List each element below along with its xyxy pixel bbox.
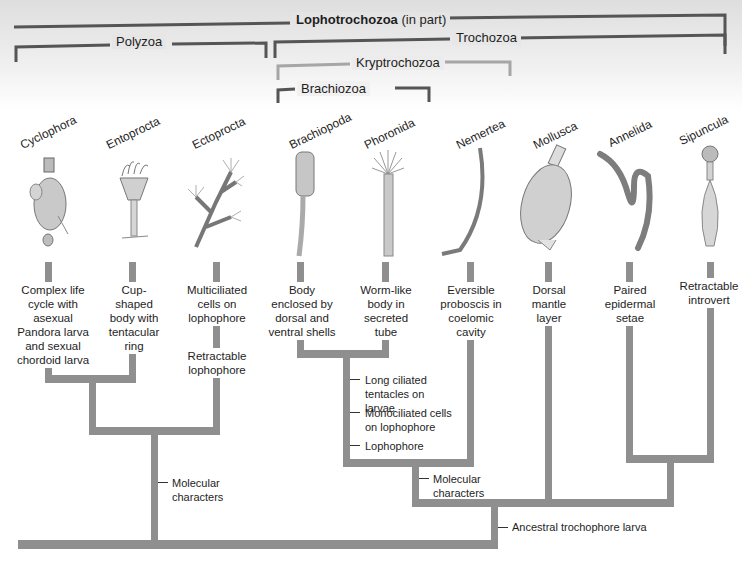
node-kryptrochozoa-characters: Molecular characters xyxy=(433,472,493,500)
character-brachiopoda: Body enclosed by dorsal and ventral shel… xyxy=(266,282,338,340)
entoprocta-illustration xyxy=(110,152,160,252)
sipuncula-illustration xyxy=(690,144,730,254)
node-polyzoa-characters: Molecular characters xyxy=(172,476,232,504)
node-lophophore: Lophophore xyxy=(365,439,424,453)
tick-lophophorate-2 xyxy=(350,412,360,413)
tick-lophophorate-3 xyxy=(350,445,360,446)
tick-trochozoa-node xyxy=(498,527,508,528)
phoronida-illustration xyxy=(368,148,408,258)
character-phoronida: Worm-like body in secreted tube xyxy=(354,282,418,340)
character-sipuncula: Retractable introvert xyxy=(676,278,742,308)
tick-kryptrochozoa-node xyxy=(419,478,429,479)
clade-brachiozoa: Brachiozoa xyxy=(297,81,370,96)
nemertea-illustration xyxy=(440,146,490,256)
character-mollusca: Dorsal mantle layer xyxy=(524,282,574,326)
clade-polyzoa: Polyzoa xyxy=(112,34,166,49)
character-ectoprocta-2: Retractable lophophore xyxy=(186,348,248,378)
cyclophora-illustration xyxy=(22,152,72,252)
annelida-illustration xyxy=(596,146,656,256)
clade-kryptrochozoa: Kryptrochozoa xyxy=(352,55,444,70)
clade-lophotrochozoa: Lophotrochozoa (in part) xyxy=(292,12,450,27)
character-ectoprocta-1: Multiciliated cells on lophophore xyxy=(186,282,248,326)
mollusca-illustration xyxy=(516,144,576,254)
character-annelida: Paired epidermal setae xyxy=(602,282,658,326)
clade-trochozoa: Trochozoa xyxy=(452,30,521,45)
ectoprocta-illustration xyxy=(186,152,246,252)
character-nemertea: Eversible proboscis in coelomic cavity xyxy=(440,282,502,340)
node-ancestral-trochophore: Ancestral trochophore larva xyxy=(512,520,647,534)
node-monociliated-cells: Monociliated cells on lophophore xyxy=(365,406,455,434)
tick-polyzoa-node xyxy=(158,482,168,483)
character-entoprocta: Cup-shaped body with tentacular ring xyxy=(104,282,164,354)
brachiopoda-illustration xyxy=(284,148,324,258)
tick-lophophorate-1 xyxy=(350,379,360,380)
character-cyclophora: Complex life cycle with asexual Pandora … xyxy=(14,282,92,368)
